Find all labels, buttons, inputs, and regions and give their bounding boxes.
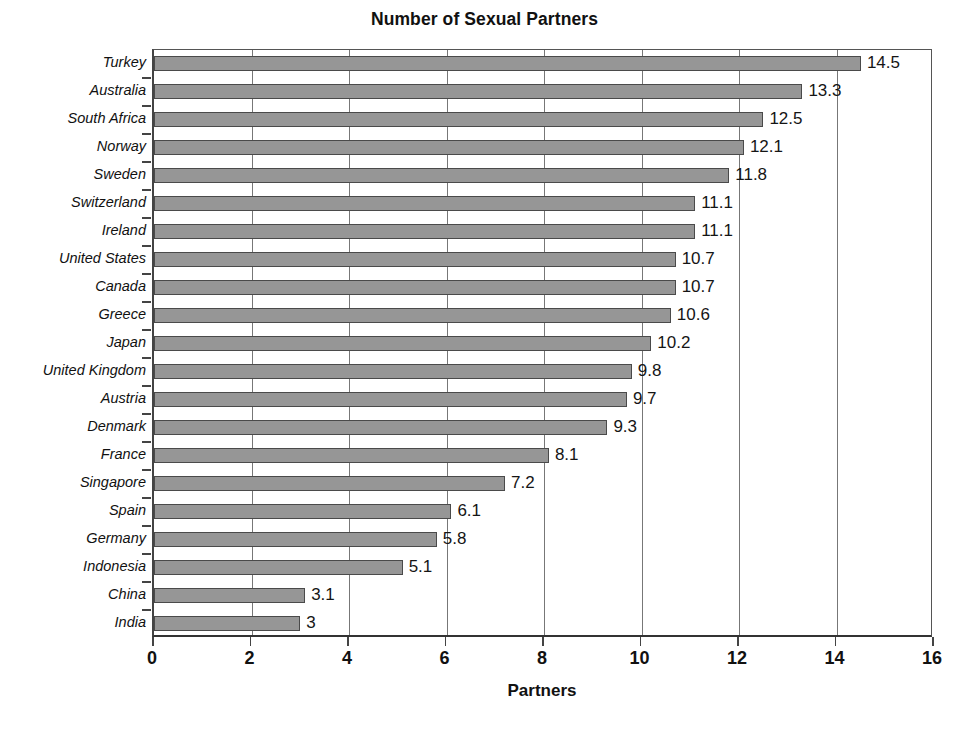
x-axis-tick-label: 8 [537, 648, 547, 669]
y-axis-tick [142, 217, 151, 219]
bar-row: 5.1 [154, 554, 931, 582]
bar [154, 336, 651, 351]
bar-value-label: 10.7 [682, 277, 715, 297]
bar [154, 392, 627, 407]
y-axis-label: Denmark [0, 418, 146, 435]
x-axis-tick [542, 637, 544, 646]
bar [154, 560, 403, 575]
x-axis-tick-label: 4 [342, 648, 352, 669]
x-axis-tick-label: 6 [439, 648, 449, 669]
bar [154, 588, 305, 603]
bar [154, 112, 763, 127]
y-axis-label: Ireland [0, 222, 146, 239]
bar [154, 56, 861, 71]
x-axis-tick-label: 2 [244, 648, 254, 669]
y-axis-label: Sweden [0, 166, 146, 183]
bar-row: 10.2 [154, 330, 931, 358]
y-axis-category-labels: TurkeyAustraliaSouth AfricaNorwaySwedenS… [0, 49, 146, 637]
bar-row: 14.5 [154, 50, 931, 78]
x-axis-tick [835, 637, 837, 646]
y-axis-label: Spain [0, 502, 146, 519]
bar-value-label: 11.1 [701, 193, 733, 213]
bar-row: 5.8 [154, 526, 931, 554]
bar [154, 364, 632, 379]
bar-value-label: 12.5 [769, 109, 802, 129]
bar [154, 532, 437, 547]
y-axis-label: Indonesia [0, 558, 146, 575]
bar-row: 9.3 [154, 414, 931, 442]
y-axis-label: Turkey [0, 54, 146, 71]
x-axis-tick [250, 637, 252, 646]
y-axis-label: France [0, 446, 146, 463]
y-axis-tick [142, 441, 151, 443]
y-axis-tick [142, 105, 151, 107]
bar-value-label: 5.8 [443, 529, 467, 549]
x-axis-tick [445, 637, 447, 646]
bar-value-label: 5.1 [409, 557, 433, 577]
bar-row: 9.7 [154, 386, 931, 414]
bar-row: 8.1 [154, 442, 931, 470]
bar-value-label: 3 [306, 613, 315, 633]
bar-row: 6.1 [154, 498, 931, 526]
y-axis-label: Norway [0, 138, 146, 155]
bar-row: 11.1 [154, 190, 931, 218]
bar-value-label: 11.8 [735, 165, 767, 185]
y-axis-label: South Africa [0, 110, 146, 127]
y-axis-tick [142, 357, 151, 359]
x-axis-tick-label: 12 [727, 648, 747, 669]
bar-row: 9.8 [154, 358, 931, 386]
bar-value-label: 10.2 [657, 333, 690, 353]
y-axis-tick [142, 385, 151, 387]
bar [154, 140, 744, 155]
bar [154, 196, 695, 211]
bar-row: 10.7 [154, 274, 931, 302]
bar-value-label: 7.2 [511, 473, 535, 493]
bar-value-label: 9.8 [638, 361, 662, 381]
bar-value-label: 13.3 [808, 81, 841, 101]
bar [154, 448, 549, 463]
bar [154, 504, 451, 519]
bar-value-label: 8.1 [555, 445, 579, 465]
y-axis-label: Japan [0, 334, 146, 351]
y-axis-tick [142, 609, 151, 611]
x-axis-tick [932, 637, 934, 646]
y-axis-label: Singapore [0, 474, 146, 491]
bar-row: 13.3 [154, 78, 931, 106]
bar [154, 420, 607, 435]
y-axis-tick [142, 77, 151, 79]
y-axis-label: Germany [0, 530, 146, 547]
bar [154, 280, 676, 295]
bar [154, 252, 676, 267]
bar [154, 224, 695, 239]
bar [154, 476, 505, 491]
y-axis-tick [142, 553, 151, 555]
x-axis-tick [347, 637, 349, 646]
bar-row: 10.7 [154, 246, 931, 274]
bar-value-label: 14.5 [867, 53, 900, 73]
bar-value-label: 11.1 [701, 221, 733, 241]
chart-title: Number of Sexual Partners [0, 9, 969, 30]
x-axis-tick-label: 14 [824, 648, 844, 669]
bar-value-label: 9.3 [613, 417, 637, 437]
y-axis-tick [142, 581, 151, 583]
y-axis-tick [142, 469, 151, 471]
y-axis-tick [142, 161, 151, 163]
bar-row: 7.2 [154, 470, 931, 498]
bar-value-label: 6.1 [457, 501, 481, 521]
y-axis-tick [142, 525, 151, 527]
bar-value-label: 12.1 [750, 137, 783, 157]
y-axis-label: Australia [0, 82, 146, 99]
bar-row: 3 [154, 610, 931, 638]
x-axis-tick [737, 637, 739, 646]
bar-row: 11.8 [154, 162, 931, 190]
y-axis-tick [142, 497, 151, 499]
bar-row: 12.5 [154, 106, 931, 134]
bar-value-label: 10.6 [677, 305, 710, 325]
bar-row: 10.6 [154, 302, 931, 330]
bar-row: 3.1 [154, 582, 931, 610]
y-axis-label: Canada [0, 278, 146, 295]
bar-value-label: 3.1 [311, 585, 335, 605]
bar-row: 11.1 [154, 218, 931, 246]
bar [154, 84, 802, 99]
y-axis-label: Switzerland [0, 194, 146, 211]
